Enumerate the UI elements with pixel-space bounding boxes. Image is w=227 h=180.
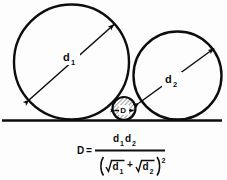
radical-d1: d 1 [106, 161, 125, 175]
numerator-term2-base: d [125, 133, 131, 144]
denominator-open-paren [101, 157, 104, 176]
D-label: D [119, 105, 129, 115]
formula-block: D = d 1 d 2 d 1 [77, 133, 166, 176]
radical-d1-base: d [113, 161, 119, 172]
d1-label-subscript: 1 [71, 58, 75, 67]
D-label-text: D [120, 106, 126, 115]
formula-lhs: D [77, 145, 84, 156]
formula-numerator: d 1 d 2 [113, 133, 136, 147]
diagram-canvas: d 1 d 2 D D = d 1 d 2 [0, 0, 227, 180]
numerator-term2-sub: 2 [132, 140, 136, 147]
d2-label-subscript: 2 [173, 80, 177, 89]
numerator-term1-sub: 1 [120, 140, 124, 147]
geometry-illustration: d 1 d 2 D D = d 1 d 2 [0, 0, 227, 180]
radical-d2: d 2 [136, 161, 155, 175]
radical-d2-base: d [143, 161, 149, 172]
d1-label: d 1 [60, 50, 80, 67]
formula-equals: = [86, 145, 92, 156]
denominator-exponent: 2 [162, 157, 166, 164]
radical-d1-sub: 1 [120, 168, 124, 175]
formula-denominator: d 1 + d 2 2 [101, 157, 166, 176]
denominator-plus: + [127, 159, 133, 170]
denominator-close-paren [157, 157, 160, 176]
d1-label-base: d [63, 51, 70, 63]
radical-d2-sub: 2 [150, 168, 154, 175]
d2-label-base: d [165, 73, 172, 85]
numerator-term1-base: d [113, 133, 119, 144]
d2-label: d 2 [162, 72, 182, 89]
